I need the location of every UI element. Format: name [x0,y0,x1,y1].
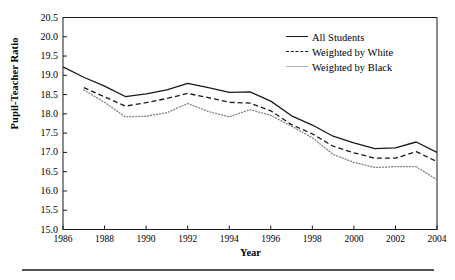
series-line-weighted-by-white [84,88,437,162]
x-tick-label: 1998 [295,234,329,244]
x-tick-label: 1986 [46,234,80,244]
dashed-line-swatch-icon [286,47,308,57]
dotted-line-swatch-icon [286,62,308,72]
x-tick-label: 1990 [129,234,163,244]
solid-line-swatch-icon [286,32,308,42]
x-tick-label: 1994 [212,234,246,244]
x-tick-label: 2004 [420,234,454,244]
legend-label-weighted-by-white: Weighted by White [312,47,393,58]
x-tick-label: 1988 [88,234,122,244]
y-tick-label: 20.0 [26,32,58,42]
y-tick-label: 18.5 [26,90,58,100]
y-tick-label: 20.5 [26,13,58,23]
legend-item-weighted-by-white: Weighted by White [286,45,436,59]
x-tick-label: 1992 [171,234,205,244]
figure-container: Pupil-Teacher Ratio Year 15.015.516.016.… [0,0,455,280]
y-tick-label: 15.5 [26,205,58,215]
y-tick-label: 17.5 [26,128,58,138]
legend-item-weighted-by-black: Weighted by Black [286,60,436,74]
y-tick-label: 17.0 [26,147,58,157]
x-tick-label: 1996 [254,234,288,244]
y-tick-label: 19.0 [26,70,58,80]
legend-item-all-students: All Students [286,30,436,44]
y-tick-label: 16.5 [26,167,58,177]
legend-label-all-students: All Students [312,32,364,43]
y-axis-ticks [63,18,67,230]
y-tick-label: 16.0 [26,186,58,196]
footer-divider [22,269,434,271]
y-tick-label: 18.0 [26,109,58,119]
legend-label-weighted-by-black: Weighted by Black [312,62,392,73]
series-line-weighted-by-black [84,90,437,180]
x-tick-label: 2000 [337,234,371,244]
x-axis-ticks [63,226,437,230]
y-tick-label: 19.5 [26,51,58,61]
series-lines-group [63,67,437,180]
chart-legend: All Students Weighted by White Weighted … [286,30,436,75]
x-tick-label: 2002 [378,234,412,244]
